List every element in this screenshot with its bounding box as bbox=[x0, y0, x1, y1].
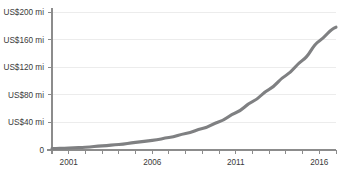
chart-canvas: US$200 miUS$160 miUS$120 miUS$80 miUS$40… bbox=[0, 0, 346, 176]
y-tick-marks-group bbox=[48, 12, 52, 150]
x-tick-marks-group bbox=[52, 150, 336, 154]
x-axis-tick-label: 2016 bbox=[310, 158, 329, 167]
y-axis-tick-label: US$40 mi bbox=[8, 118, 44, 127]
x-axis-tick-label: 2011 bbox=[227, 158, 245, 167]
data-series-line bbox=[52, 27, 336, 148]
x-axis-labels-group: 2001200620112016 bbox=[60, 158, 329, 167]
x-axis-tick-label: 2006 bbox=[143, 158, 162, 167]
y-axis-tick-label: US$200 mi bbox=[3, 8, 44, 17]
x-axis-tick-label: 2001 bbox=[60, 158, 79, 167]
y-axis-tick-label: 0 bbox=[39, 146, 44, 155]
y-axis-tick-label: US$80 mi bbox=[8, 91, 44, 100]
y-axis-tick-label: US$120 mi bbox=[3, 63, 44, 72]
y-axis-tick-label: US$160 mi bbox=[3, 36, 44, 45]
y-axis-labels-group: US$200 miUS$160 miUS$120 miUS$80 miUS$40… bbox=[3, 8, 44, 155]
line-chart: US$200 miUS$160 miUS$120 miUS$80 miUS$40… bbox=[0, 0, 346, 176]
